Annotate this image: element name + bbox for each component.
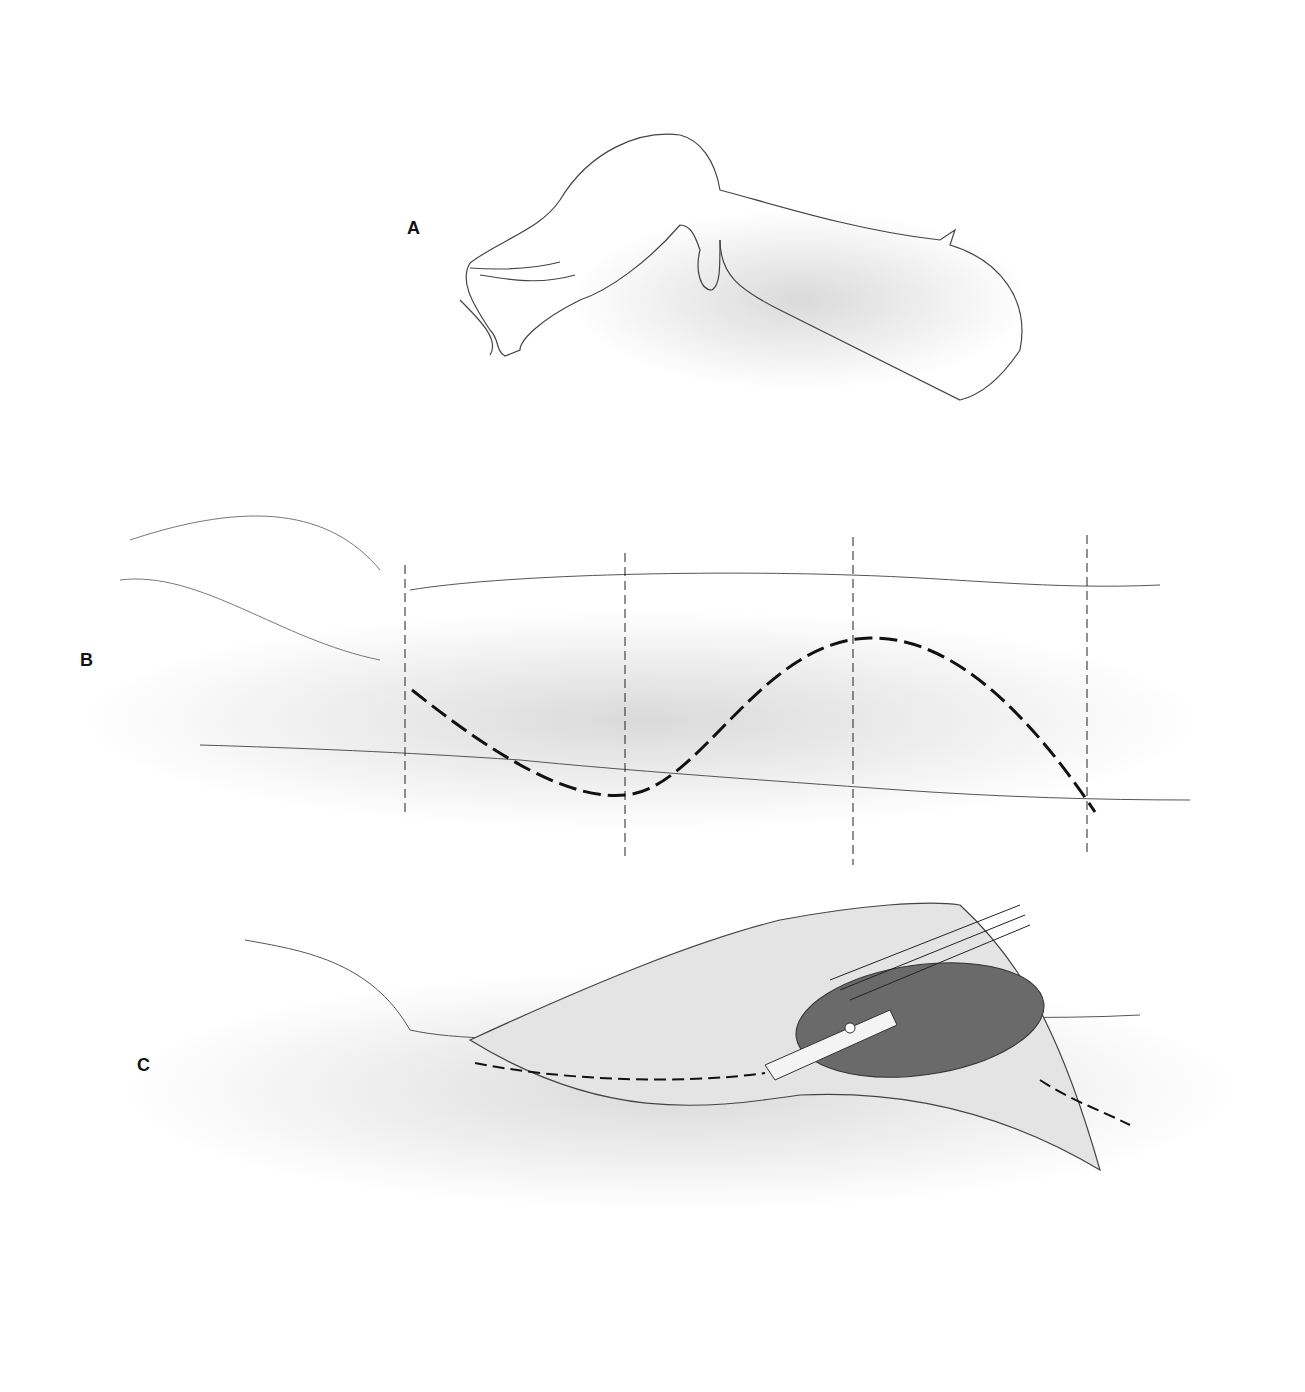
panel-b-forearm <box>80 516 1200 865</box>
illustration <box>0 0 1305 1392</box>
panel-a-hand <box>460 134 1030 400</box>
panel-c-exposure <box>120 903 1240 1210</box>
